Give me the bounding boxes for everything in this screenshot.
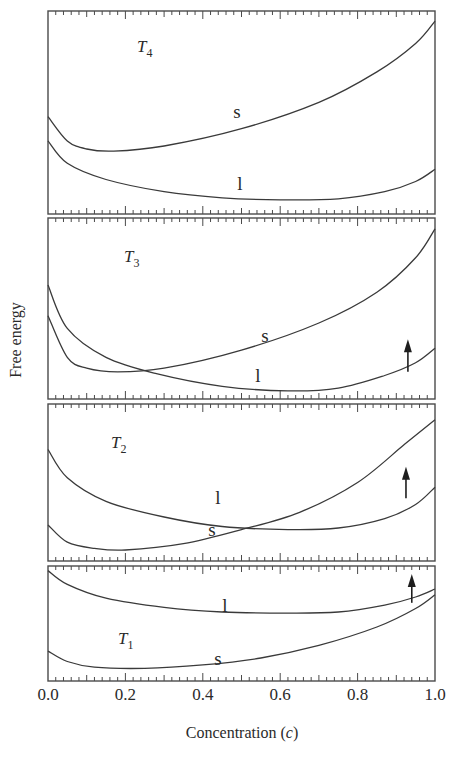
x-tick-label: 0.8 [347,685,368,704]
curve-s [48,21,435,151]
x-axis-tick-labels: 0.00.20.40.60.81.0 [37,685,445,704]
curve-l [48,450,435,530]
temperature-label: T4 [137,37,152,60]
x-tick-label: 0.0 [37,685,58,704]
x-tick-label: 0.6 [270,685,291,704]
curve-s [48,420,435,551]
curve-label-l: l [222,595,227,616]
temperature-label: T2 [111,433,126,456]
x-tick-label: 0.4 [192,685,214,704]
temperature-label: T1 [118,629,133,652]
x-axis-label: Concentration (c) [186,724,298,742]
y-axis-label: Free energy [7,302,25,378]
panel-t4: slT4 [48,11,435,214]
curve-l [48,285,435,391]
curve-label-s: s [208,519,215,540]
curve-label-l: l [215,487,220,508]
curve-label-s: s [214,648,221,669]
chart-panels: slT4slT3lsT2lsT1 [48,11,435,681]
tick-marks [56,404,428,561]
free-energy-chart: slT4slT3lsT2lsT1 0.00.20.40.60.81.0 Conc… [0,0,462,760]
panel-t2: lsT2 [48,404,435,561]
curve-label-s: s [261,325,268,346]
curve-label-s: s [233,101,240,122]
panel-t3: slT3 [48,218,435,399]
x-tick-label: 1.0 [424,685,445,704]
arrow-icon [402,467,410,498]
curve-label-l: l [255,365,260,386]
arrow-icon [404,339,412,372]
panel-frame [48,566,435,681]
curve-s [48,229,435,372]
panel-frame [48,404,435,561]
curve-l [48,571,435,614]
temperature-label: T3 [124,247,139,270]
tick-marks [56,566,428,681]
panel-t1: lsT1 [48,566,435,681]
curve-label-l: l [237,173,242,194]
curve-s [48,595,435,669]
x-tick-label: 0.2 [115,685,136,704]
